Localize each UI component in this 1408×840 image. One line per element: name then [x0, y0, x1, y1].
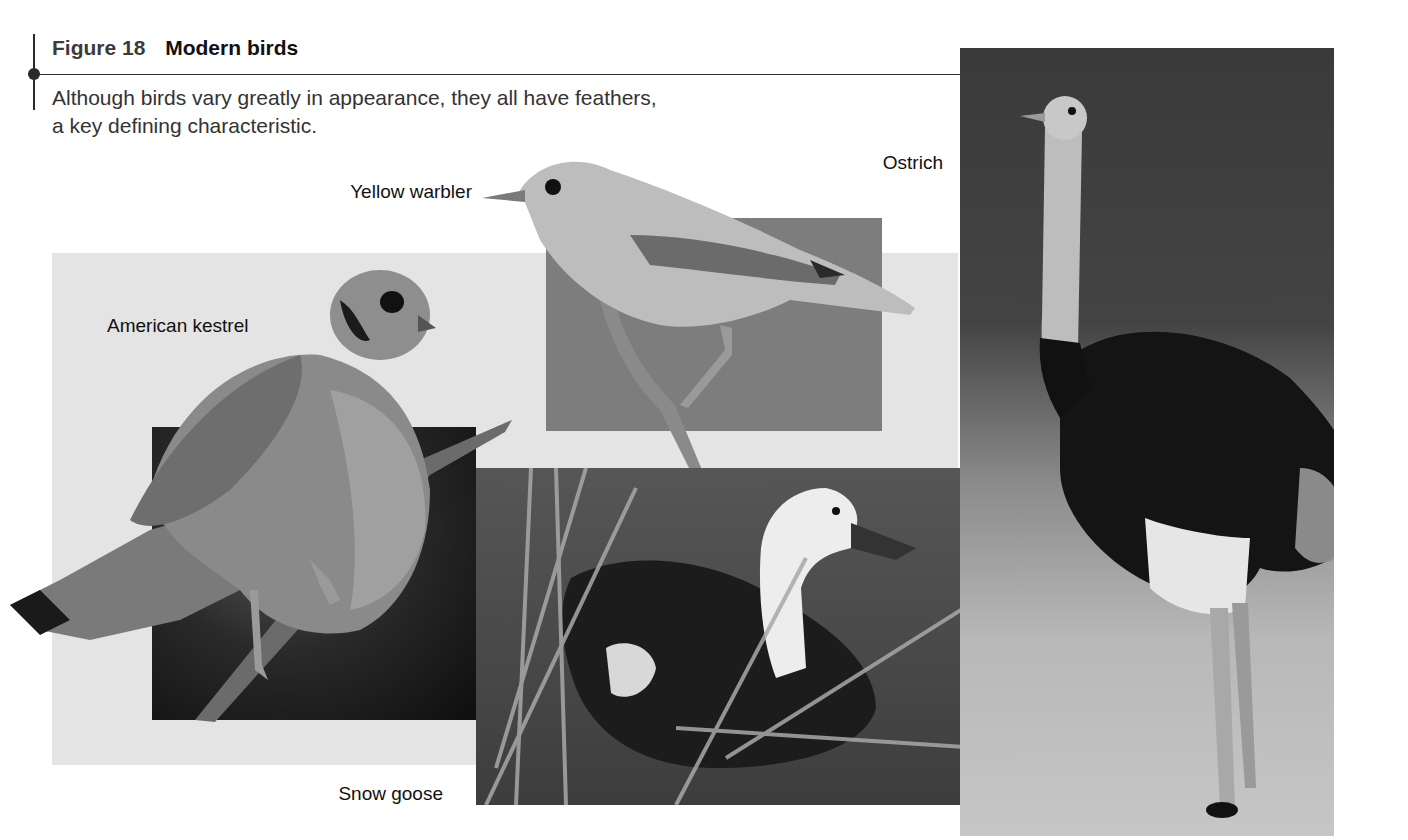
ostrich-illustration: [960, 48, 1334, 836]
ostrich-photo: [960, 48, 1334, 836]
caption-line-2: a key defining characteristic.: [52, 112, 812, 140]
label-snow-goose: Snow goose: [338, 783, 443, 805]
caption-line-1: Although birds vary greatly in appearanc…: [52, 84, 812, 112]
header-horizontal-rule: [34, 74, 960, 75]
label-american-kestrel: American kestrel: [107, 315, 249, 337]
snow-goose-photo: [476, 468, 980, 805]
american-kestrel-illustration: [0, 260, 520, 730]
snow-goose-illustration: [476, 468, 980, 805]
header-bullet-dot: [28, 68, 40, 80]
yellow-warbler-illustration: [470, 150, 930, 470]
figure-caption: Although birds vary greatly in appearanc…: [52, 84, 812, 140]
figure-title: Figure 18 Modern birds: [52, 36, 298, 60]
label-yellow-warbler: Yellow warbler: [350, 181, 472, 203]
figure-number: Figure 18: [52, 36, 145, 59]
label-ostrich: Ostrich: [883, 152, 943, 174]
figure-name: Modern birds: [165, 36, 298, 59]
